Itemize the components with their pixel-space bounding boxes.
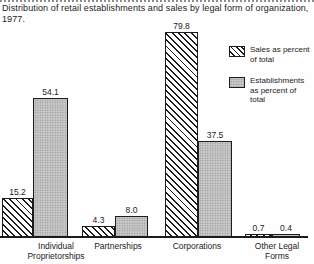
- bar-establishments-other-legal-forms: [272, 234, 300, 237]
- figure: Distribution of retail establishments an…: [0, 0, 314, 264]
- legend-label-establishments: Establishments as percent of total: [250, 76, 313, 105]
- value-label-establishments-partnerships: 8.0: [126, 205, 138, 215]
- value-label-sales-other-legal-forms: 0.7: [253, 223, 265, 233]
- bar-sales-other-legal-forms: [245, 234, 272, 237]
- bar-establishments-individual-proprietorships: [33, 98, 68, 237]
- bar-establishments-partnerships: [115, 216, 148, 237]
- value-label-establishments-corporations: 37.5: [207, 130, 224, 140]
- legend-item-sales: Sales as percent of total: [229, 45, 313, 64]
- bar-establishments-corporations: [198, 141, 232, 237]
- value-label-sales-corporations: 79.8: [173, 21, 190, 31]
- hatched-swatch-icon: [229, 46, 245, 57]
- bar-sales-corporations: [165, 32, 198, 237]
- bar-sales-partnerships: [82, 226, 115, 237]
- value-label-sales-partnerships: 4.3: [93, 215, 105, 225]
- legend: Sales as percent of total Establishments…: [229, 45, 313, 117]
- plot-area: 15.24.379.80.754.18.037.50.4Individual P…: [0, 0, 314, 264]
- bar-sales-individual-proprietorships: [2, 198, 33, 237]
- legend-item-establishments: Establishments as percent of total: [229, 76, 313, 105]
- value-label-establishments-other-legal-forms: 0.4: [280, 223, 292, 233]
- gray-dotted-swatch-icon: [229, 77, 245, 88]
- x-axis-label-other-legal-forms: Other Legal Forms: [248, 242, 306, 261]
- legend-label-sales: Sales as percent of total: [250, 45, 313, 64]
- value-label-sales-individual-proprietorships: 15.2: [9, 187, 26, 197]
- value-label-establishments-individual-proprietorships: 54.1: [42, 87, 59, 97]
- x-axis-label-corporations: Corporations: [157, 242, 237, 252]
- x-axis-label-partnerships: Partnerships: [78, 242, 158, 252]
